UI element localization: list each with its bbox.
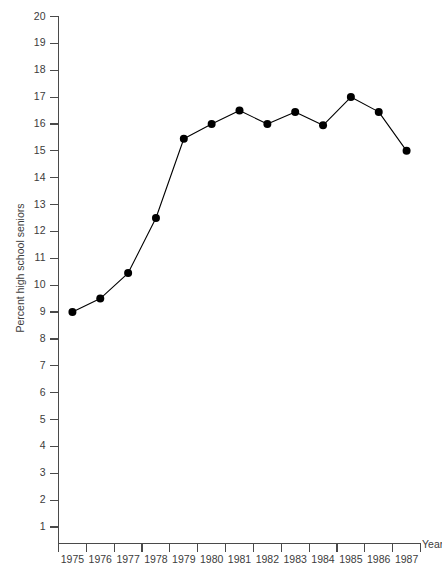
- x-axis: [59, 544, 421, 552]
- y-tick-label: 5: [18, 413, 46, 425]
- data-point-marker: [236, 107, 244, 115]
- y-tick-label: 3: [18, 466, 46, 478]
- data-point-marker: [263, 120, 271, 128]
- y-tick-label: 7: [18, 359, 46, 371]
- x-tick-label: 1987: [390, 553, 424, 565]
- y-tick-label: 16: [18, 117, 46, 129]
- y-tick-label: 19: [18, 36, 46, 48]
- data-point-marker: [403, 147, 411, 155]
- data-point-marker: [291, 108, 299, 116]
- y-tick-label: 20: [18, 10, 46, 22]
- data-point-marker: [124, 269, 132, 277]
- y-axis: [50, 17, 59, 544]
- data-point-marker: [375, 108, 383, 116]
- series-line: [72, 97, 406, 312]
- data-series: [68, 93, 410, 316]
- y-tick-label: 14: [18, 171, 46, 183]
- y-axis-title: Percent high school seniors: [14, 188, 26, 348]
- y-tick-label: 6: [18, 386, 46, 398]
- y-tick-label: 1: [18, 520, 46, 532]
- data-point-marker: [96, 295, 104, 303]
- y-tick-label: 15: [18, 144, 46, 156]
- data-point-marker: [152, 214, 160, 222]
- y-tick-label: 2: [18, 493, 46, 505]
- data-point-marker: [180, 135, 188, 143]
- line-chart: 1234567891011121314151617181920 19751976…: [0, 0, 442, 578]
- data-point-marker: [208, 120, 216, 128]
- y-tick-label: 18: [18, 63, 46, 75]
- data-point-marker: [319, 121, 327, 129]
- data-point-marker: [68, 308, 76, 316]
- y-tick-label: 17: [18, 90, 46, 102]
- y-tick-label: 4: [18, 439, 46, 451]
- plot-area: [0, 0, 442, 578]
- x-axis-title: Year: [422, 538, 442, 550]
- data-point-marker: [347, 93, 355, 101]
